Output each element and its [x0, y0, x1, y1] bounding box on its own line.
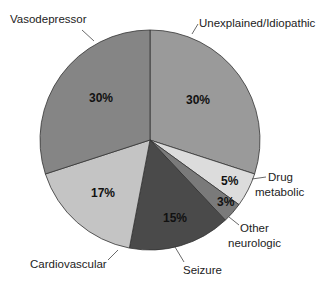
- label-drug-line2: metabolic: [255, 186, 304, 198]
- label-unexplained: Unexplained/Idiopathic: [199, 17, 316, 29]
- label-other-line1: Other: [240, 222, 269, 234]
- label-cardiovascular: Cardiovascular: [30, 258, 107, 270]
- label-vasodepressor: Vasodepressor: [10, 13, 87, 25]
- pie-chart: Vasodepressor Unexplained/Idiopathic Dru…: [0, 0, 323, 283]
- pct-seizure: 15%: [163, 211, 187, 225]
- leader-drug: [252, 177, 266, 179]
- pct-vasodepressor: 30%: [89, 91, 113, 105]
- label-seizure: Seizure: [183, 264, 222, 276]
- pct-drug: 5%: [221, 174, 239, 188]
- leader-seizure: [175, 247, 184, 262]
- label-other-line2: neurologic: [228, 237, 281, 249]
- pct-unexplained: 30%: [186, 93, 210, 107]
- label-drug-line1: Drug: [268, 171, 293, 183]
- pct-cardiovascular: 17%: [91, 186, 115, 200]
- leader-vaso: [82, 30, 94, 41]
- leader-other: [229, 217, 239, 225]
- pie-slices: [40, 30, 260, 250]
- leader-cardio: [108, 250, 118, 260]
- pct-other: 3%: [217, 195, 235, 209]
- leader-unexplained: [192, 24, 198, 34]
